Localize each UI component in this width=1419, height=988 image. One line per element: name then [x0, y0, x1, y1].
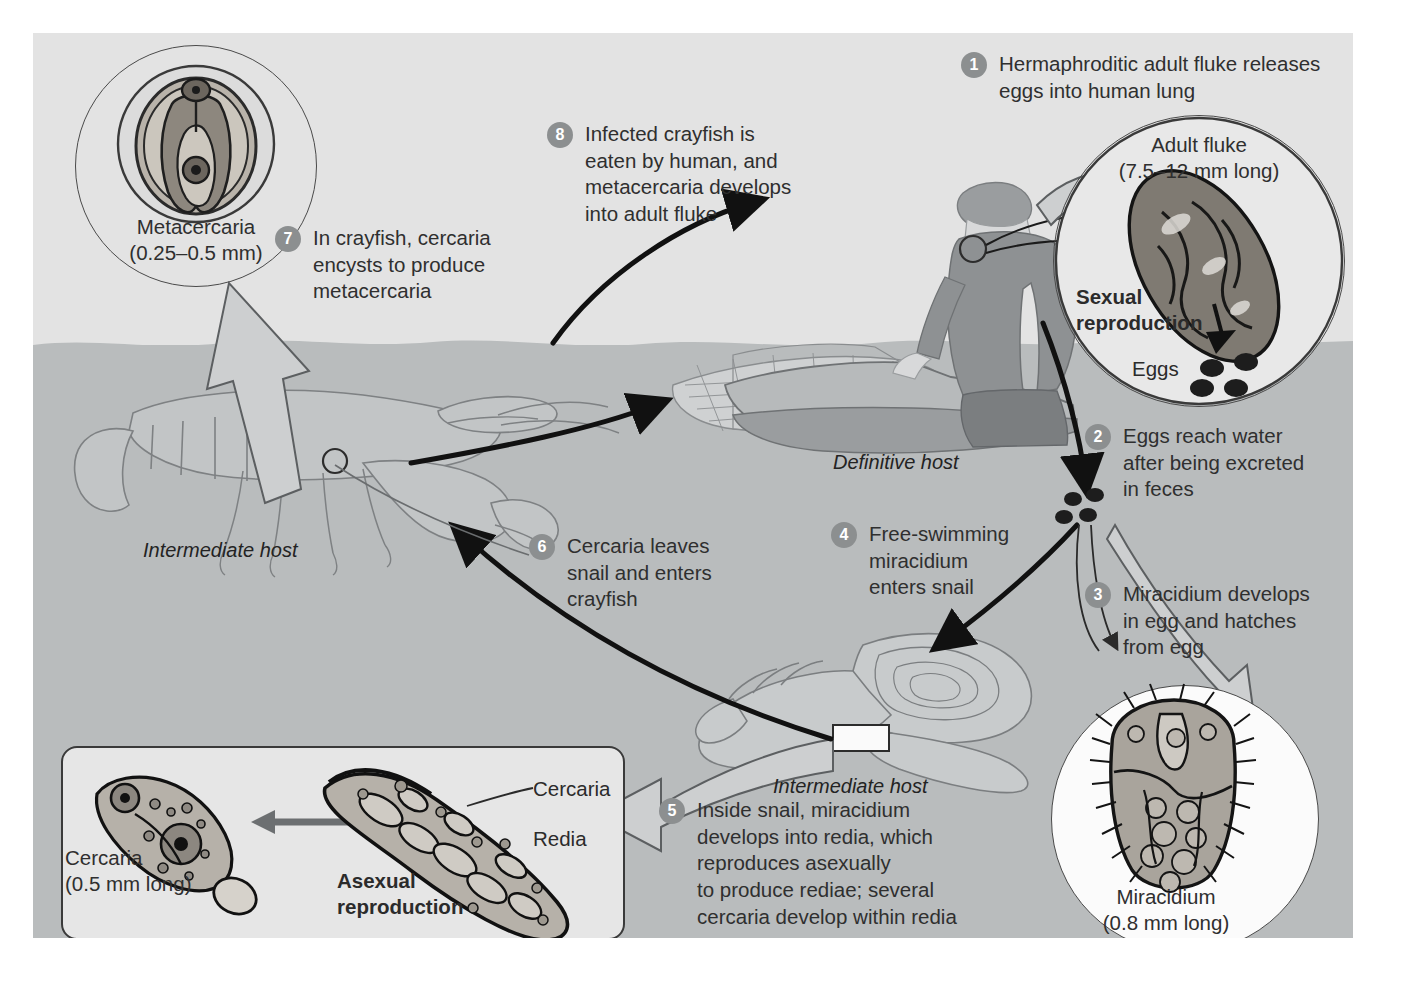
metacercaria-inset-circle: Metacercaria (0.25–0.5 mm) [75, 45, 317, 287]
step-5-badge: 5 [659, 798, 685, 824]
crayfish-host-label: Intermediate host [143, 539, 298, 562]
cercaria-caption: Cercaria (0.5 mm long) [65, 845, 265, 897]
egg-cluster [1055, 488, 1104, 524]
step-8-text: Infected crayfish is eaten by human, and… [585, 121, 791, 228]
step-1-text: Hermaphroditic adult fluke releases eggs… [999, 51, 1320, 104]
leader-line-cercaria-label [467, 788, 533, 806]
step-5-text: Inside snail, miracidium develops into r… [697, 797, 957, 930]
step-2-text: Eggs reach water after being excreted in… [1123, 423, 1304, 503]
human-host-label: Definitive host [833, 451, 959, 474]
step-2-badge: 2 [1085, 424, 1111, 450]
step-4-badge: 4 [831, 522, 857, 548]
asexual-reproduction-label: Asexual reproduction [337, 868, 463, 920]
sexual-reproduction-label: Sexual reproduction [1076, 284, 1216, 336]
snail-host-label: Intermediate host [773, 775, 928, 798]
diagram-canvas: Metacercaria (0.25–0.5 mm) [0, 0, 1419, 988]
miracidium-caption: Miracidium (0.8 mm long) [1046, 884, 1286, 936]
step-7-text: In crayfish, cercaria encysts to produce… [313, 225, 491, 305]
lifecycle-panel: Metacercaria (0.25–0.5 mm) [33, 33, 1353, 938]
step-4-text: Free-swimming miracidium enters snail [869, 521, 1009, 601]
cercaria-inbox-label: Cercaria [533, 776, 610, 802]
redia-inbox-label: Redia [533, 826, 587, 852]
step-7-badge: 7 [275, 226, 301, 252]
step-3-badge: 3 [1085, 582, 1111, 608]
step-3-text: Miracidium develops in egg and hatches f… [1123, 581, 1310, 661]
snail-infection-marker [833, 725, 889, 751]
eggs-label: Eggs [1132, 356, 1179, 382]
miracidium-inset-circle: Miracidium (0.8 mm long) [1051, 685, 1319, 938]
asexual-reproduction-box: Cercaria Redia Asexual reproduction [61, 746, 625, 938]
step-8-badge: 8 [547, 122, 573, 148]
step-6-text: Cercaria leaves snail and enters crayfis… [567, 533, 712, 613]
step-1-badge: 1 [961, 52, 987, 78]
step-6-badge: 6 [529, 534, 555, 560]
adult-fluke-caption: Adult fluke (7.5–12 mm long) [1074, 132, 1324, 184]
adult-fluke-inset-circle: Adult fluke (7.5–12 mm long) Sexual repr… [1053, 115, 1345, 407]
